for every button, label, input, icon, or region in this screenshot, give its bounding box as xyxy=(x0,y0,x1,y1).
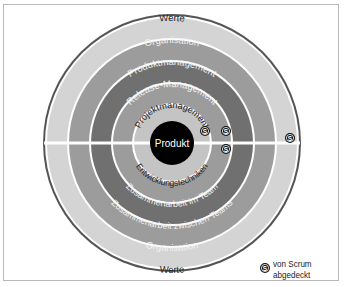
scrum-badge-zusammenarbeit-im-team: S xyxy=(221,144,231,154)
scrum-badge-projektmanagement: S xyxy=(200,126,210,136)
legend-text: von Scrum abgedeckt xyxy=(273,258,312,280)
svg-text:S: S xyxy=(263,265,268,272)
scrum-coverage-diagram: Produkt Werte Organisation Produktmanage… xyxy=(0,0,345,287)
legend: S von Scrum abgedeckt xyxy=(260,258,318,280)
scrum-badge-werte: S xyxy=(285,133,295,143)
center-label: Produkt xyxy=(155,138,190,149)
svg-text:S: S xyxy=(288,135,293,142)
scrum-badge-icon: S xyxy=(260,263,270,273)
legend-line-1: von Scrum xyxy=(273,258,312,269)
svg-text:S: S xyxy=(203,128,208,135)
svg-text:S: S xyxy=(224,128,229,135)
ring-label-top-werte: Werte xyxy=(159,12,185,24)
legend-line-2: abgedeckt xyxy=(273,269,312,280)
ring-label-bottom-werte: Werte xyxy=(159,263,184,275)
svg-text:S: S xyxy=(224,146,229,153)
scrum-badge-release-management: S xyxy=(221,126,231,136)
